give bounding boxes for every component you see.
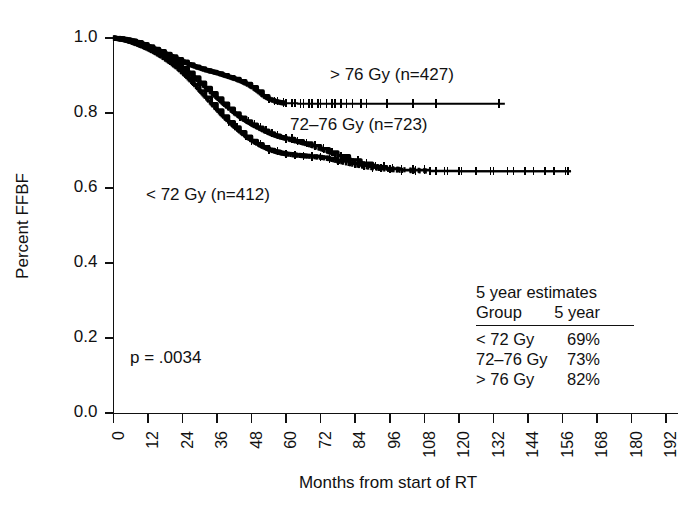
estimates-row-value-0: 69% [567, 330, 600, 348]
y-axis-title: Percent FFBF [13, 173, 32, 279]
chart-figure: 0.00.20.40.60.81.0 012243648607284961081… [0, 0, 693, 510]
x-tick-label-36: 36 [213, 431, 230, 449]
series-label-gt76: > 76 Gy (n=427) [330, 65, 454, 84]
x-tick-label-84: 84 [351, 431, 368, 449]
y-tick-label-0.0: 0.0 [74, 402, 98, 421]
y-tick-label-0.8: 0.8 [74, 102, 98, 121]
x-axis-ticks: 0122436486072849610812013214415616818019… [110, 413, 680, 458]
estimates-table-header-5year: 5 year [554, 303, 600, 321]
x-axis-title: Months from start of RT [299, 473, 477, 492]
x-tick-label-72: 72 [317, 431, 334, 449]
x-tick-label-192: 192 [662, 431, 679, 458]
series-label-lt72: < 72 Gy (n=412) [146, 185, 270, 204]
x-tick-label-60: 60 [282, 431, 299, 449]
estimates-row-group-2: > 76 Gy [476, 370, 535, 388]
estimates-table-title: 5 year estimates [476, 283, 597, 301]
estimates-table-header-group: Group [476, 303, 522, 321]
x-tick-label-48: 48 [248, 431, 265, 449]
y-axis-ticks: 0.00.20.40.60.81.0 [74, 27, 114, 421]
x-tick-label-108: 108 [421, 431, 438, 458]
p-value-annotation: p = .0034 [130, 348, 201, 367]
x-tick-label-12: 12 [144, 431, 161, 449]
estimates-row-group-1: 72–76 Gy [476, 350, 548, 368]
x-tick-label-144: 144 [524, 431, 541, 458]
estimates-row-value-1: 73% [567, 350, 600, 368]
x-tick-label-168: 168 [593, 431, 610, 458]
estimates-row-value-2: 82% [567, 370, 600, 388]
x-tick-label-120: 120 [455, 431, 472, 458]
x-tick-label-0: 0 [110, 431, 127, 440]
kaplan-meier-plot: 0.00.20.40.60.81.0 012243648607284961081… [0, 0, 693, 510]
x-tick-label-96: 96 [386, 431, 403, 449]
survival-curves [114, 38, 572, 171]
y-tick-label-0.2: 0.2 [74, 327, 98, 346]
five-year-estimates-table: 5 year estimates Group 5 year < 72 Gy 69… [476, 283, 634, 388]
curve-dense-1 [114, 38, 373, 166]
y-tick-label-0.4: 0.4 [74, 252, 98, 271]
estimates-row-group-0: < 72 Gy [476, 330, 535, 348]
x-tick-label-156: 156 [559, 431, 576, 458]
y-tick-label-1.0: 1.0 [74, 27, 98, 46]
series-label-72-76: 72–76 Gy (n=723) [290, 115, 428, 134]
x-tick-label-132: 132 [490, 431, 507, 458]
x-tick-label-180: 180 [628, 431, 645, 458]
x-tick-label-24: 24 [179, 431, 196, 449]
censor-marks [114, 35, 568, 175]
y-tick-label-0.6: 0.6 [74, 177, 98, 196]
